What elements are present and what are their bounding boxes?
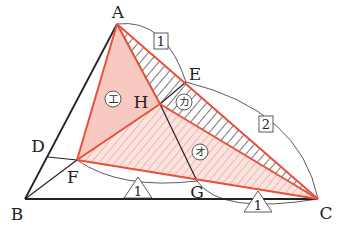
point-label-F: F [67, 167, 79, 187]
svg-text:エ: エ [108, 93, 119, 106]
point-label-D: D [31, 136, 45, 156]
region-label-e: エ [105, 91, 121, 107]
point-label-C: C [319, 203, 332, 223]
svg-text:2: 2 [262, 117, 270, 132]
point-label-G: G [190, 182, 204, 202]
svg-text:オ: オ [195, 146, 206, 159]
diagram-canvas: 1 2 1 1 エ カ オ A B C D E F G H [0, 0, 347, 230]
ratio-box-EC: 2 [259, 116, 273, 132]
svg-text:1: 1 [254, 198, 262, 213]
point-label-A: A [111, 2, 125, 22]
region-label-ka: カ [176, 94, 192, 110]
point-label-H: H [134, 92, 149, 112]
geometry-diagram: 1 2 1 1 エ カ オ A B C D E F G H [0, 0, 347, 230]
region-label-o: オ [192, 144, 208, 160]
ratio-triangle-GC: 1 [244, 191, 272, 213]
ratio-box-AE: 1 [154, 33, 168, 49]
point-label-E: E [189, 64, 201, 84]
svg-text:1: 1 [157, 34, 165, 49]
point-label-B: B [11, 204, 24, 224]
svg-text:1: 1 [134, 184, 142, 199]
segment-DF [48, 157, 77, 160]
svg-text:カ: カ [179, 96, 190, 109]
